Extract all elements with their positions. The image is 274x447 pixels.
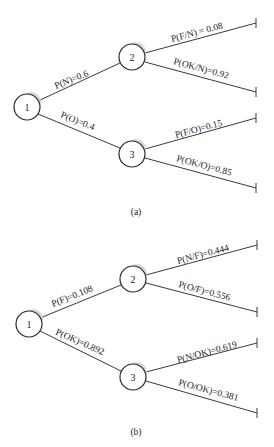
edge-label-pok-n: P(OK/N)=0.92 <box>172 56 230 81</box>
node-b-3: 3 <box>120 362 147 390</box>
node-b-1: 1 <box>16 309 43 337</box>
edge-label-pok-o: P(OK/O)=0.85 <box>175 153 233 178</box>
edge-label-pn-ok: P(N/OK)=0.619 <box>176 339 239 366</box>
node-a-1: 1 <box>14 92 41 120</box>
caption-b: (b) <box>130 427 141 438</box>
edge-label-pn: P(N)=0.6 <box>53 68 90 92</box>
edge-label-po: P(O)=0.4 <box>59 110 96 134</box>
edge-label-pok: P(OK)=0.892 <box>54 327 106 358</box>
edge-label-pf-n: P(F/N) = 0.08 <box>170 20 224 44</box>
edge-label-pf: P(F)=0.108 <box>50 283 95 310</box>
node-label: 3 <box>131 372 136 383</box>
node-label: 2 <box>130 52 135 63</box>
node-label: 3 <box>130 149 135 160</box>
tree-diagram-a: 1 2 3 P(N)=0.6 P(O)=0.4 P(F/N) = 0.08 P(… <box>14 18 256 218</box>
node-label: 1 <box>25 102 30 113</box>
node-b-2: 2 <box>120 264 147 292</box>
probability-trees: 1 2 3 P(N)=0.6 P(O)=0.4 P(F/N) = 0.08 P(… <box>0 0 274 447</box>
edge-label-po-ok: P(O/OK)=0.381 <box>177 377 240 404</box>
edge-a-1-2 <box>38 63 120 101</box>
node-label: 2 <box>131 274 136 285</box>
edge-label-po-f: P(O/F)=0.556 <box>177 279 231 303</box>
node-label: 1 <box>27 319 32 330</box>
node-a-3: 3 <box>119 139 146 167</box>
tree-diagram-b: 1 2 3 P(F)=0.108 P(OK)=0.892 P(N/F)=0.44… <box>16 240 257 438</box>
node-a-2: 2 <box>119 42 146 70</box>
caption-a: (a) <box>131 207 142 218</box>
